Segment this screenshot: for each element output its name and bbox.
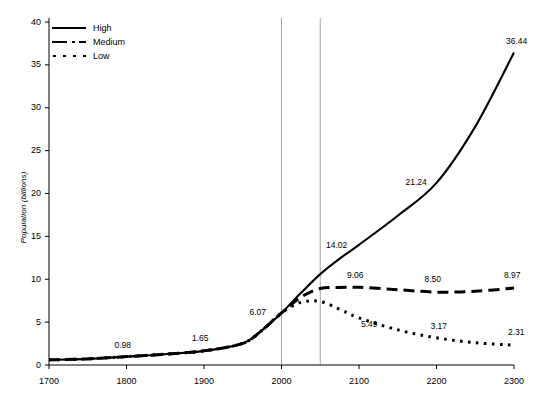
y-tick-0: 0 — [19, 361, 41, 370]
label-14-02: 14.02 — [326, 241, 347, 250]
population-projection-chart: Population (billions) 0510152025303540 1… — [0, 0, 537, 409]
y-tick-40: 40 — [19, 18, 41, 27]
label-5-49: 5.49 — [361, 320, 378, 329]
y-tick-15: 15 — [19, 232, 41, 241]
y-tick-10: 10 — [19, 275, 41, 284]
y-tick-5: 5 — [19, 318, 41, 327]
legend-key-solid-icon — [52, 23, 90, 33]
label-8-50: 8.50 — [425, 275, 442, 284]
reference-lines-group — [282, 18, 321, 365]
legend-key-dotted-icon — [52, 51, 90, 61]
x-tick-1800: 1800 — [107, 377, 147, 386]
legend-label-high: High — [93, 24, 112, 33]
legend-item-medium: Medium — [52, 35, 125, 49]
y-tick-25: 25 — [19, 146, 41, 155]
y-axis-title: Population (billions) — [19, 148, 28, 268]
y-axis-title-wrap: Population (billions) — [16, 150, 30, 270]
label-8-97: 8.97 — [504, 271, 521, 280]
y-tick-30: 30 — [19, 103, 41, 112]
label-3-17: 3.17 — [431, 322, 448, 331]
label-0-98: 0.98 — [115, 341, 132, 350]
x-tick-2200: 2200 — [417, 377, 457, 386]
legend-label-medium: Medium — [93, 38, 125, 47]
x-tick-2300: 2300 — [494, 377, 534, 386]
label-9-06: 9.06 — [347, 271, 364, 280]
legend-item-high: High — [52, 21, 125, 35]
label-2-31: 2.31 — [508, 328, 525, 337]
y-tick-20: 20 — [19, 189, 41, 198]
legend-item-low: Low — [52, 49, 125, 63]
x-tick-1700: 1700 — [29, 377, 69, 386]
label-21-24: 21.24 — [406, 178, 427, 187]
label-6-07: 6.07 — [250, 308, 267, 317]
y-tick-35: 35 — [19, 60, 41, 69]
legend-label-low: Low — [93, 52, 110, 61]
chart-legend: High Medium Low — [52, 21, 125, 63]
legend-key-dashed-icon — [52, 37, 90, 47]
x-tick-1900: 1900 — [184, 377, 224, 386]
x-tick-2000: 2000 — [262, 377, 302, 386]
label-36-44: 36.44 — [506, 37, 527, 46]
x-tick-2100: 2100 — [339, 377, 379, 386]
label-1-65: 1.65 — [192, 334, 209, 343]
